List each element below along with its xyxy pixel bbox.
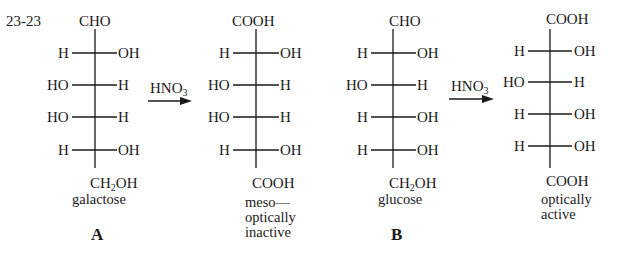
left-substituent: HO [208, 77, 230, 93]
right-substituent: H [280, 109, 291, 125]
arrow-head [482, 95, 494, 103]
bottom-group: CH2OH [389, 175, 437, 191]
right-substituent: OH [280, 45, 302, 61]
compound-name: glucose [378, 192, 422, 207]
top-group: CHO [389, 13, 421, 29]
left-substituent: H [514, 106, 525, 122]
left-substituent: HO [47, 109, 69, 125]
left-substituent: HO [346, 77, 368, 93]
right-substituent: OH [574, 106, 596, 122]
reagent-label: HNO3 [150, 80, 188, 96]
right-substituent: H [574, 74, 585, 90]
right-substituent: OH [118, 45, 140, 61]
right-substituent: H [417, 77, 428, 93]
reagent-label: HNO3 [451, 78, 489, 94]
left-substituent: H [219, 45, 230, 61]
left-substituent: H [58, 142, 69, 158]
right-substituent: OH [574, 43, 596, 59]
left-substituent: HO [47, 77, 69, 93]
left-substituent: H [514, 43, 525, 59]
right-substituent: H [280, 77, 291, 93]
right-substituent: OH [417, 45, 439, 61]
right-substituent: OH [417, 142, 439, 158]
note-line: inactive [245, 225, 291, 240]
left-substituent: HO [503, 74, 525, 90]
left-substituent: H [58, 45, 69, 61]
right-substituent: OH [574, 138, 596, 154]
left-substituent: H [357, 45, 368, 61]
note-line: meso— [245, 195, 290, 210]
right-substituent: OH [118, 142, 140, 158]
compound-name: galactose [72, 192, 126, 207]
bottom-group: CH2OH [90, 175, 138, 191]
bottom-group: COOH [252, 175, 295, 191]
problem-number: 23-23 [6, 13, 41, 29]
left-substituent: H [357, 109, 368, 125]
top-group: COOH [546, 11, 589, 27]
note-line: optically [245, 210, 296, 225]
arrow-head [180, 97, 192, 105]
bottom-group: COOH [546, 173, 589, 189]
note-line: optically [541, 192, 592, 207]
top-group: COOH [232, 13, 275, 29]
top-group: CHO [79, 13, 111, 29]
bond-lines [0, 0, 629, 255]
note-line: active [541, 207, 576, 222]
left-substituent: H [357, 142, 368, 158]
right-substituent: H [118, 77, 129, 93]
right-substituent: OH [417, 109, 439, 125]
left-substituent: H [514, 138, 525, 154]
left-substituent: HO [208, 109, 230, 125]
left-substituent: H [219, 142, 230, 158]
compound-letter: B [391, 225, 402, 245]
right-substituent: H [118, 109, 129, 125]
compound-letter: A [91, 225, 103, 245]
right-substituent: OH [280, 142, 302, 158]
